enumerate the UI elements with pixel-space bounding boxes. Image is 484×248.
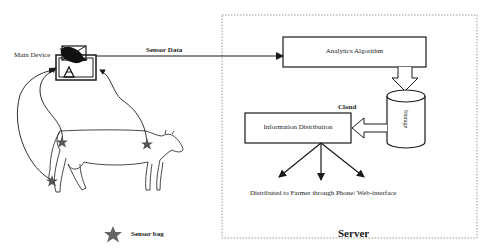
cloud-label: Cloud bbox=[338, 103, 356, 111]
distribution-arrows bbox=[279, 143, 364, 180]
cow-illustration bbox=[49, 130, 183, 192]
analytics-to-storage-arrow bbox=[392, 67, 418, 91]
main-device-label: Main Device bbox=[14, 51, 50, 59]
analytics-algorithm-label: Analytics Algorithm bbox=[283, 47, 426, 55]
storage-label: Storage bbox=[403, 99, 409, 139]
storage-to-distribution-arrow bbox=[352, 118, 387, 138]
main-device bbox=[56, 44, 96, 80]
star-icon bbox=[46, 175, 58, 187]
distribution-output-label: Distributed to Farmer through Phone/ Web… bbox=[250, 189, 396, 197]
legend-star-icon bbox=[104, 226, 122, 243]
sensor-wires bbox=[17, 68, 147, 180]
server-title: Server bbox=[338, 227, 369, 239]
information-distribution-label: Information Distribution bbox=[245, 123, 351, 131]
sensor-data-label: Sensor Data bbox=[146, 46, 182, 54]
sensor-bags bbox=[46, 136, 153, 187]
legend-sensor-bag-label: Sensor bag bbox=[131, 230, 164, 238]
iot-cattle-monitoring-diagram: Main Device Sensor Data Analytics Algori… bbox=[0, 0, 484, 248]
star-icon bbox=[141, 138, 153, 150]
